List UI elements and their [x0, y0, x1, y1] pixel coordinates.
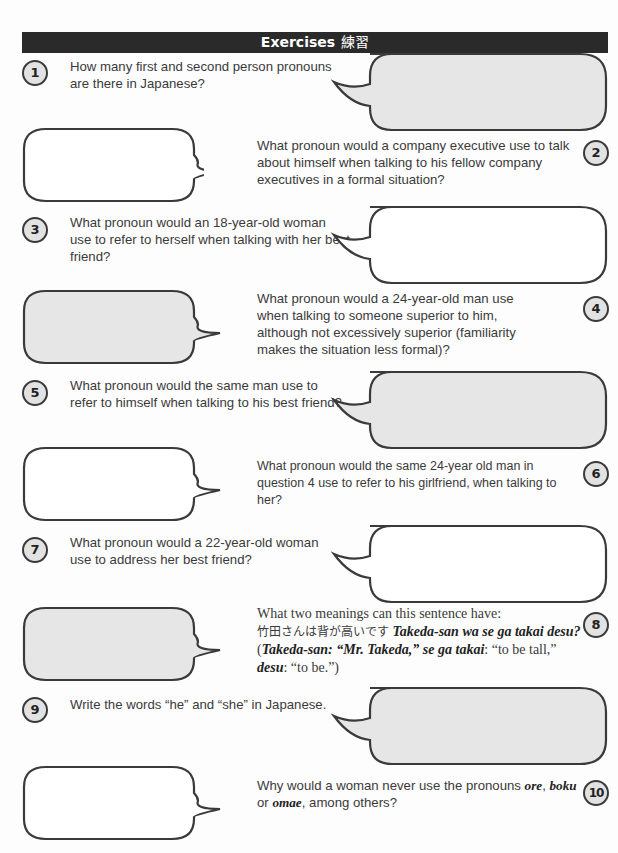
- answer-bubble-10[interactable]: [22, 765, 222, 841]
- question-text-6: What pronoun would the same 24-year old …: [257, 458, 577, 509]
- answer-bubble-6[interactable]: [22, 446, 222, 522]
- q8-gloss-2-def: : “to be tall,”: [484, 642, 556, 657]
- q8-romaji: Takeda-san wa se ga takai desu?: [393, 624, 581, 639]
- header-title: Exercises: [261, 34, 335, 50]
- question-text-8: What two meanings can this sentence have…: [257, 605, 587, 677]
- q10-term-ore: ore: [525, 778, 543, 793]
- q10-term-boku: boku: [550, 778, 577, 793]
- answer-bubble-9[interactable]: [330, 686, 610, 766]
- q8-gloss-3-term: desu: [257, 660, 283, 675]
- question-number-1: 1: [22, 60, 48, 86]
- q8-gloss-2-term: se ga takai: [423, 642, 484, 657]
- q8-gloss-1: Takeda-san: “Mr. Takeda,”: [262, 642, 420, 657]
- q10-term-omae: omae: [272, 795, 301, 810]
- question-text-4: What pronoun would a 24-year-old man use…: [257, 290, 547, 358]
- q8-japanese-sentence: 竹田さんは背が高いです: [257, 625, 389, 639]
- answer-bubble-4[interactable]: [22, 289, 222, 365]
- answer-bubble-2[interactable]: [22, 127, 204, 203]
- question-text-2: What pronoun would a company executive u…: [257, 137, 577, 188]
- q10-intro: Why would a woman never use the pronouns: [257, 778, 521, 793]
- exercises-header: Exercises練習: [22, 32, 608, 53]
- q10-outro: , among others?: [302, 795, 397, 810]
- question-text-5: What pronoun would the same man use to r…: [70, 377, 345, 411]
- question-text-1: How many first and second person pronoun…: [70, 58, 340, 92]
- question-number-9: 9: [22, 697, 48, 723]
- header-title-jp: 練習: [341, 34, 369, 50]
- question-text-3: What pronoun would an 18-year-old woman …: [70, 214, 350, 265]
- question-text-10: Why would a woman never use the pronouns…: [257, 777, 582, 811]
- question-number-4: 4: [583, 296, 609, 322]
- answer-bubble-3[interactable]: [330, 205, 610, 285]
- q8-intro: What two meanings can this sentence have…: [257, 606, 501, 621]
- question-number-7: 7: [22, 537, 48, 563]
- question-text-9: Write the words “he” and “she” in Japane…: [70, 696, 350, 713]
- question-number-8: 8: [583, 612, 609, 638]
- answer-bubble-1[interactable]: [330, 52, 610, 132]
- answer-bubble-8[interactable]: [22, 606, 222, 682]
- answer-bubble-5[interactable]: [330, 370, 610, 450]
- question-number-10: 10: [583, 780, 609, 806]
- question-text-7: What pronoun would a 22-year-old woman u…: [70, 534, 340, 568]
- answer-bubble-7[interactable]: [330, 524, 610, 604]
- question-number-5: 5: [22, 380, 48, 406]
- q8-gloss-3-def: : “to be.”): [283, 660, 339, 675]
- question-number-3: 3: [22, 217, 48, 243]
- question-number-2: 2: [583, 140, 609, 166]
- q10-connector: or: [257, 795, 269, 810]
- question-number-6: 6: [583, 461, 609, 487]
